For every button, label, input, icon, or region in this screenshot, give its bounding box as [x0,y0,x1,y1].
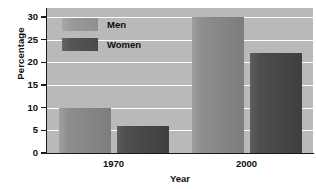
x-axis-line [46,153,314,154]
y-tick-mark [41,62,46,63]
y-tick-label: 10 [0,103,38,113]
bar-women-2000 [250,53,302,153]
women-legend-swatch [62,38,98,51]
x-tick-label: 1970 [84,158,144,169]
x-axis-title: Year [47,173,313,184]
y-tick-label: 20 [0,57,38,67]
bar-men-2000 [192,17,244,153]
legend-item-men: Men [62,18,141,31]
y-tick-label: 0 [0,148,38,158]
y-tick-mark [41,39,46,40]
y-tick-mark [41,130,46,131]
y-tick-label: 15 [0,80,38,90]
bar-men-1970 [59,108,111,153]
y-tick-mark [41,16,46,17]
bar-chart: Percentage 051015202530 19702000 Year Me… [0,0,316,189]
y-tick-mark [41,84,46,85]
y-tick-label: 25 [0,35,38,45]
legend-item-women: Women [62,38,141,51]
y-tick-label: 5 [0,125,38,135]
y-tick-label: 30 [0,12,38,22]
bar-women-1970 [117,126,169,153]
legend-label-women: Women [107,39,141,50]
x-tick-label: 2000 [217,158,277,169]
y-axis-line [46,8,47,154]
men-legend-swatch [62,18,98,31]
legend-label-men: Men [107,19,126,30]
y-tick-mark [41,152,46,153]
chart-legend: Men Women [62,18,141,58]
y-tick-mark [41,107,46,108]
